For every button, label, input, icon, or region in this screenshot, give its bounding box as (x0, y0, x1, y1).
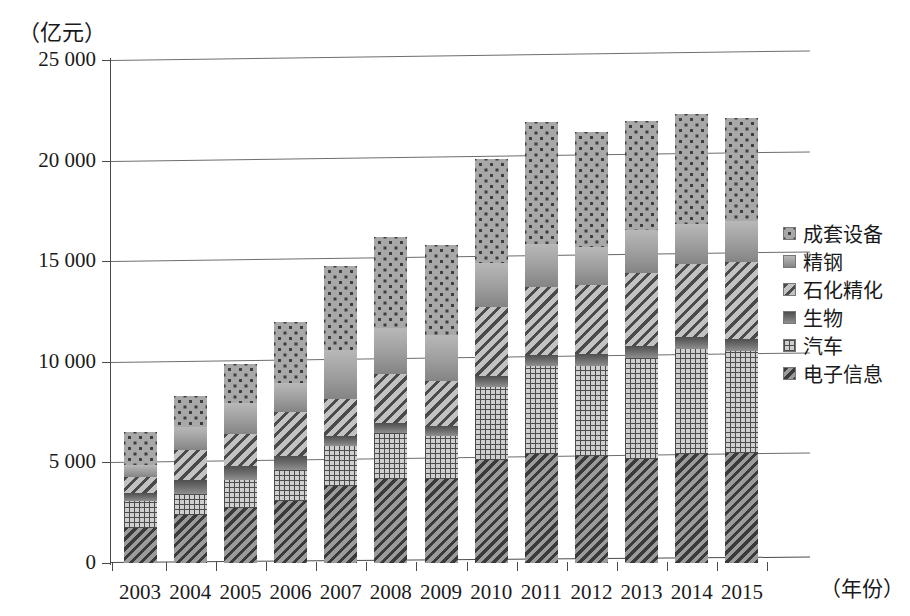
bar-segment-电子信息[interactable] (725, 453, 758, 563)
bar-segment-成套设备[interactable] (174, 396, 207, 427)
bar-segment-石化精化[interactable] (625, 273, 658, 345)
bar-segment-石化精化[interactable] (124, 477, 157, 493)
bar-segment-汽车[interactable] (725, 351, 758, 454)
bar-segment-生物[interactable] (725, 339, 758, 351)
bar-segment-石化精化[interactable] (575, 285, 608, 353)
bar-segment-石化精化[interactable] (224, 434, 257, 466)
bar-segment-精钢[interactable] (374, 328, 407, 374)
bar-segment-汽车[interactable] (625, 358, 658, 460)
bar-segment-电子信息[interactable] (324, 486, 357, 563)
bar-2015[interactable] (725, 118, 758, 563)
legend-item-电子信息[interactable]: 电子信息 (783, 362, 883, 384)
bar-segment-成套设备[interactable] (124, 432, 157, 465)
bar-segment-电子信息[interactable] (475, 460, 508, 563)
bar-2010[interactable] (475, 159, 508, 563)
bar-segment-成套设备[interactable] (324, 266, 357, 349)
x-axis-tick-label: 2008 (370, 580, 412, 605)
bar-segment-汽车[interactable] (274, 470, 307, 500)
bar-2014[interactable] (675, 114, 708, 563)
bar-segment-成套设备[interactable] (425, 245, 458, 335)
bar-2007[interactable] (324, 266, 357, 563)
bar-segment-石化精化[interactable] (174, 450, 207, 479)
bar-segment-精钢[interactable] (425, 335, 458, 381)
bar-segment-电子信息[interactable] (124, 528, 157, 563)
bar-segment-石化精化[interactable] (425, 381, 458, 426)
bar-segment-石化精化[interactable] (274, 412, 307, 456)
bar-2013[interactable] (625, 121, 658, 563)
bar-segment-汽车[interactable] (324, 446, 357, 485)
bar-2005[interactable] (224, 364, 257, 563)
bar-segment-生物[interactable] (324, 436, 357, 446)
bar-segment-电子信息[interactable] (575, 456, 608, 563)
bar-segment-精钢[interactable] (174, 427, 207, 450)
bar-2011[interactable] (525, 122, 558, 563)
bar-segment-汽车[interactable] (475, 387, 508, 460)
bar-segment-精钢[interactable] (525, 244, 558, 287)
bar-segment-石化精化[interactable] (324, 399, 357, 436)
bar-segment-成套设备[interactable] (374, 237, 407, 328)
bar-segment-生物[interactable] (525, 355, 558, 366)
bar-segment-精钢[interactable] (274, 383, 307, 412)
legend-swatch-icon (783, 311, 796, 324)
bar-segment-生物[interactable] (374, 423, 407, 433)
bar-segment-电子信息[interactable] (224, 508, 257, 563)
bar-segment-精钢[interactable] (475, 263, 508, 307)
bar-segment-生物[interactable] (224, 466, 257, 479)
bar-segment-汽车[interactable] (675, 349, 708, 455)
bar-2012[interactable] (575, 132, 608, 563)
bar-segment-成套设备[interactable] (725, 118, 758, 221)
bar-segment-电子信息[interactable] (374, 479, 407, 564)
x-axis-tick (416, 562, 417, 571)
bar-segment-精钢[interactable] (725, 221, 758, 262)
bar-segment-成套设备[interactable] (675, 114, 708, 224)
bar-segment-成套设备[interactable] (575, 132, 608, 247)
legend-item-精钢[interactable]: 精钢 (783, 250, 883, 272)
bar-segment-生物[interactable] (174, 480, 207, 494)
bar-segment-汽车[interactable] (174, 494, 207, 515)
bar-segment-精钢[interactable] (575, 247, 608, 285)
bar-segment-成套设备[interactable] (625, 121, 658, 230)
bar-segment-汽车[interactable] (124, 501, 157, 528)
bar-segment-精钢[interactable] (224, 403, 257, 434)
bar-segment-生物[interactable] (625, 346, 658, 358)
legend-item-生物[interactable]: 生物 (783, 306, 883, 328)
bar-segment-石化精化[interactable] (725, 262, 758, 338)
bar-segment-汽车[interactable] (425, 436, 458, 478)
bar-2006[interactable] (274, 322, 307, 563)
bar-segment-成套设备[interactable] (224, 364, 257, 403)
bar-segment-汽车[interactable] (525, 366, 558, 455)
bar-segment-生物[interactable] (274, 456, 307, 470)
bar-segment-精钢[interactable] (124, 465, 157, 477)
bar-segment-生物[interactable] (425, 426, 458, 436)
bar-2008[interactable] (374, 237, 407, 563)
bar-segment-精钢[interactable] (625, 230, 658, 273)
bar-segment-成套设备[interactable] (274, 322, 307, 383)
bar-segment-生物[interactable] (475, 376, 508, 387)
bar-segment-电子信息[interactable] (425, 479, 458, 564)
bar-segment-汽车[interactable] (374, 433, 407, 478)
bar-segment-成套设备[interactable] (475, 159, 508, 264)
bar-segment-生物[interactable] (575, 354, 608, 366)
bar-segment-精钢[interactable] (324, 350, 357, 399)
bar-segment-电子信息[interactable] (274, 501, 307, 563)
bar-segment-石化精化[interactable] (525, 287, 558, 354)
bar-segment-汽车[interactable] (224, 480, 257, 508)
bar-segment-电子信息[interactable] (675, 454, 708, 563)
bar-2009[interactable] (425, 245, 458, 563)
bar-segment-石化精化[interactable] (374, 374, 407, 423)
bar-segment-汽车[interactable] (575, 366, 608, 457)
legend-item-石化精化[interactable]: 石化精化 (783, 278, 883, 300)
bar-segment-石化精化[interactable] (475, 307, 508, 375)
legend-item-成套设备[interactable]: 成套设备 (783, 222, 883, 244)
bar-segment-电子信息[interactable] (525, 454, 558, 563)
bar-segment-成套设备[interactable] (525, 122, 558, 244)
bar-segment-电子信息[interactable] (625, 459, 658, 563)
bar-2004[interactable] (174, 396, 207, 563)
bar-segment-石化精化[interactable] (675, 264, 708, 336)
bar-segment-生物[interactable] (124, 493, 157, 501)
bar-segment-精钢[interactable] (675, 224, 708, 264)
bar-segment-电子信息[interactable] (174, 515, 207, 563)
legend-item-汽车[interactable]: 汽车 (783, 334, 883, 356)
bar-2003[interactable] (124, 432, 157, 563)
bar-segment-生物[interactable] (675, 337, 708, 349)
